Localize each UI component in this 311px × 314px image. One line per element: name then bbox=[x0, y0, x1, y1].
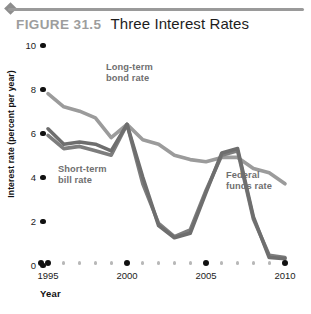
x-axis-minor-tick-dot-icon bbox=[189, 261, 192, 264]
x-axis-tick-label: 2010 bbox=[265, 270, 305, 281]
figure-heading: FIGURE 31.5 Three Interest Rates bbox=[16, 15, 249, 32]
annotation-federal-funds-rate: Federal funds rate bbox=[226, 170, 272, 193]
x-axis-minor-tick-dot-icon bbox=[157, 261, 160, 264]
x-axis-minor-tick-dot-icon bbox=[252, 261, 255, 264]
x-axis-tick-label: 2000 bbox=[107, 270, 147, 281]
x-axis-tick-label: 2005 bbox=[186, 270, 226, 281]
x-axis-title: Year bbox=[40, 288, 61, 299]
x-axis-minor-tick-dot-icon bbox=[268, 261, 271, 264]
figure-title: Three Interest Rates bbox=[110, 15, 249, 32]
x-axis-tick-label: 1995 bbox=[28, 270, 68, 281]
annotation-line-1: Short-term bbox=[58, 164, 107, 175]
chart-plot-area: Interest rate (percent per year) 10 8 6 … bbox=[0, 34, 311, 314]
annotation-line-2: bill rate bbox=[58, 175, 107, 186]
annotation-line-1: Federal bbox=[226, 170, 272, 181]
x-axis-minor-tick-dot-icon bbox=[236, 261, 239, 264]
figure-number-label: FIGURE 31.5 bbox=[16, 17, 101, 32]
annotation-long-term-bond-rate: Long-term bond rate bbox=[106, 62, 153, 85]
x-axis-minor-tick-dot-icon bbox=[110, 261, 113, 264]
x-axis-minor-tick-dot-icon bbox=[78, 261, 81, 264]
x-axis-minor-tick-dot-icon bbox=[173, 261, 176, 264]
annotation-short-term-bill-rate: Short-term bill rate bbox=[58, 164, 107, 187]
annotation-line-1: Long-term bbox=[106, 62, 153, 73]
figure-card: FIGURE 31.5 Three Interest Rates Interes… bbox=[0, 0, 311, 314]
annotation-line-2: bond rate bbox=[106, 73, 153, 84]
header-divider bbox=[8, 8, 304, 11]
annotation-line-2: funds rate bbox=[226, 181, 272, 192]
x-axis-minor-tick-dot-icon bbox=[94, 261, 97, 264]
